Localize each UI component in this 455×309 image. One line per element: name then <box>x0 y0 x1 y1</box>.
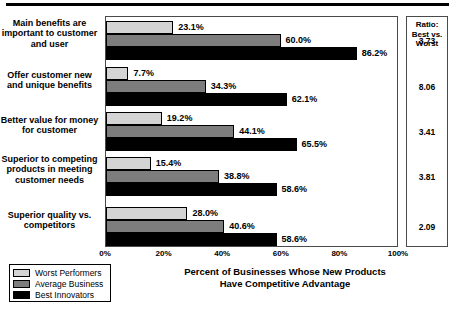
bar-value-label: 15.4% <box>156 158 182 168</box>
ratio-value: 3.41 <box>407 127 447 137</box>
bar-value-label: 60.0% <box>286 35 312 45</box>
category-label: Superior quality vs. competitors <box>0 210 99 231</box>
bar <box>106 34 281 47</box>
bar-value-label: 65.5% <box>302 139 328 149</box>
plot-area: 23.1%60.0%86.2%7.7%34.3%62.1%19.2%44.1%6… <box>105 16 398 247</box>
ratio-value: 8.06 <box>407 82 447 92</box>
category-label: Main benefits are important to customer … <box>0 18 99 50</box>
bar-row: 15.4% <box>106 157 397 170</box>
bar-row: 60.0% <box>106 34 397 47</box>
bar-value-label: 62.1% <box>292 94 318 104</box>
bar <box>106 220 224 233</box>
bar <box>106 80 206 93</box>
bar-row: 23.1% <box>106 21 397 34</box>
category-label: Better value for money for customer <box>0 115 99 136</box>
bar <box>106 170 219 183</box>
legend-label: Average Business <box>35 279 103 289</box>
chart-container: Main benefits are important to customer … <box>0 0 455 309</box>
bar <box>106 47 357 60</box>
legend-item-worst-performers: Worst Performers <box>13 267 107 278</box>
legend-label: Worst Performers <box>35 268 101 278</box>
bar-value-label: 38.8% <box>224 171 250 181</box>
x-axis-tick-label: 0% <box>99 249 111 258</box>
bar-row: 44.1% <box>106 125 397 138</box>
bar-value-label: 58.6% <box>282 234 308 244</box>
category-label: Offer customer new and unique benefits <box>0 70 99 91</box>
category-axis-labels: Main benefits are important to customer … <box>0 16 101 247</box>
bar <box>106 233 277 246</box>
category-label: Superior to competing products in meetin… <box>0 154 99 186</box>
bar-row: 65.5% <box>106 138 397 151</box>
x-axis-ticks: 0%20%40%60%80%100% <box>105 249 398 261</box>
bar-value-label: 58.6% <box>282 184 308 194</box>
legend-swatch-icon <box>13 269 30 277</box>
bar-value-label: 19.2% <box>167 113 193 123</box>
bar <box>106 67 128 80</box>
bar-row: 7.7% <box>106 67 397 80</box>
bar-row: 40.6% <box>106 220 397 233</box>
legend-item-average-business: Average Business <box>13 278 107 289</box>
x-axis-title-line: Have Competitive Advantage <box>150 278 420 290</box>
top-divider-rule <box>6 3 449 6</box>
bar-row: 58.6% <box>106 233 397 246</box>
x-axis-tick-label: 60% <box>273 249 289 258</box>
bar-row: 86.2% <box>106 47 397 60</box>
bar-row: 38.8% <box>106 170 397 183</box>
legend-item-best-innovators: Best Innovators <box>13 289 107 300</box>
bar-row: 19.2% <box>106 112 397 125</box>
bar-value-label: 23.1% <box>178 22 204 32</box>
ratio-value: 2.09 <box>407 222 447 232</box>
bar-row: 34.3% <box>106 80 397 93</box>
bar <box>106 125 234 138</box>
legend-swatch-icon <box>13 291 30 299</box>
bar-row: 58.6% <box>106 183 397 196</box>
ratio-column: Ratio: Best vs. Worst 3.73 8.06 3.41 3.8… <box>406 16 448 247</box>
bar <box>106 183 277 196</box>
x-axis-tick-label: 20% <box>156 249 172 258</box>
x-axis-tick-label: 80% <box>331 249 347 258</box>
bar-value-label: 40.6% <box>229 221 255 231</box>
bar-row: 28.0% <box>106 207 397 220</box>
chart-legend: Worst Performers Average Business Best I… <box>9 264 111 302</box>
legend-label: Best Innovators <box>35 290 94 300</box>
ratio-value: 3.81 <box>407 172 447 182</box>
legend-swatch-icon <box>13 280 30 288</box>
x-axis-tick-label: 40% <box>214 249 230 258</box>
bar-value-label: 34.3% <box>211 81 237 91</box>
x-axis-title-line: Percent of Businesses Whose New Products <box>150 266 420 278</box>
bar-value-label: 28.0% <box>192 208 218 218</box>
ratio-value: 3.73 <box>407 36 447 46</box>
bar-row: 62.1% <box>106 93 397 106</box>
x-axis-tick-label: 100% <box>388 249 408 258</box>
bar-value-label: 7.7% <box>133 68 154 78</box>
bar <box>106 112 162 125</box>
ratio-header-line: Ratio: <box>407 20 447 30</box>
bar-value-label: 44.1% <box>239 126 265 136</box>
bar <box>106 157 151 170</box>
bar <box>106 93 287 106</box>
bar <box>106 207 187 220</box>
bar <box>106 21 173 34</box>
bar-value-label: 86.2% <box>362 48 388 58</box>
bar <box>106 138 297 151</box>
x-axis-title: Percent of Businesses Whose New Products… <box>150 266 420 289</box>
